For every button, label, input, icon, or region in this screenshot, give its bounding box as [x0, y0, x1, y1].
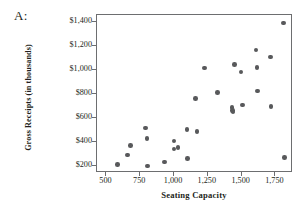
data-point	[172, 139, 177, 144]
data-point	[193, 96, 198, 101]
y-tick-mark	[92, 21, 96, 22]
data-point	[128, 143, 133, 148]
data-point	[255, 89, 260, 94]
y-tick-label: $1,200	[46, 40, 92, 49]
data-point	[282, 155, 287, 160]
y-tick-mark	[92, 117, 96, 118]
data-point	[254, 48, 259, 53]
x-tick-label: 1,750	[249, 176, 299, 185]
data-point	[239, 70, 244, 75]
data-point	[268, 55, 273, 60]
y-tick-mark	[92, 141, 96, 142]
data-point	[195, 129, 200, 134]
plot-frame	[96, 14, 292, 172]
data-point	[162, 160, 167, 165]
data-point	[145, 164, 150, 169]
y-tick-mark	[92, 93, 96, 94]
data-point	[202, 66, 207, 71]
scatter-plot-figure: A: Gross Receipts (in thousands) $200$40…	[0, 0, 307, 214]
y-tick-label: $600	[46, 112, 92, 121]
data-point	[185, 127, 190, 132]
data-point	[125, 153, 130, 158]
data-point	[240, 103, 245, 108]
data-point	[115, 162, 120, 167]
data-point	[231, 110, 236, 115]
data-point	[143, 126, 148, 131]
y-tick-mark	[92, 69, 96, 70]
y-tick-mark	[92, 45, 96, 46]
y-tick-label: $1,000	[46, 64, 92, 73]
data-point	[255, 65, 260, 70]
y-tick-label: $400	[46, 136, 92, 145]
data-point	[269, 104, 274, 109]
y-tick-label: $800	[46, 88, 92, 97]
data-point	[281, 21, 286, 26]
y-tick-label: $1,400	[46, 16, 92, 25]
y-tick-label: $200	[46, 160, 92, 169]
data-point	[215, 90, 220, 95]
x-axis-title: Seating Capacity	[96, 190, 292, 200]
y-tick-mark	[92, 165, 96, 166]
data-point	[232, 62, 237, 67]
data-point	[176, 145, 181, 150]
data-point	[185, 156, 190, 161]
data-point	[145, 136, 150, 141]
